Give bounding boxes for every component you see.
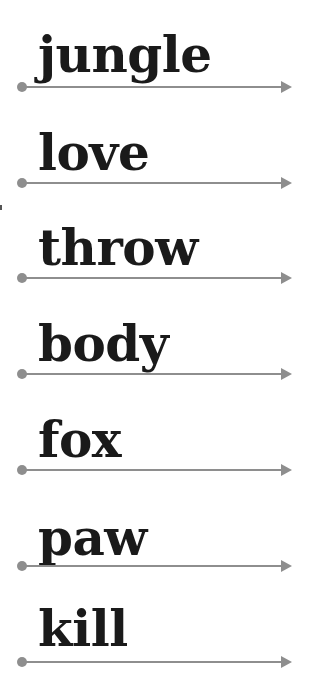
word-label: throw <box>38 223 198 273</box>
word-label: kill <box>38 604 128 654</box>
writing-line <box>22 277 284 279</box>
word-row-kill: kill <box>0 0 313 96</box>
word-label: paw <box>38 513 147 563</box>
arrow-right-icon <box>281 177 292 189</box>
stray-mark <box>0 205 2 210</box>
arrow-right-icon <box>281 464 292 476</box>
word-label: love <box>38 128 149 178</box>
writing-line <box>22 661 284 663</box>
arrow-right-icon <box>281 560 292 572</box>
word-label: fox <box>38 415 121 465</box>
arrow-right-icon <box>281 656 292 668</box>
writing-line <box>22 565 284 567</box>
word-label: body <box>38 319 168 369</box>
arrow-right-icon <box>281 368 292 380</box>
arrow-right-icon <box>281 272 292 284</box>
writing-line <box>22 182 284 184</box>
writing-line <box>22 373 284 375</box>
writing-line <box>22 469 284 471</box>
